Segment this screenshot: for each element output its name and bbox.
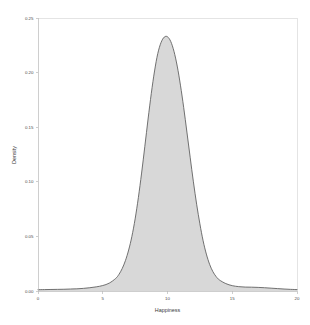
x-tick-label: 10: [165, 296, 170, 301]
chart-canvas: 05101520 Happiness 0.000.050.100.150.200…: [0, 0, 310, 325]
y-tick-label: 0.20: [25, 70, 34, 75]
y-axis-title: Density: [11, 146, 17, 164]
y-tick-label: 0.10: [25, 179, 34, 184]
density-chart: 05101520 Happiness 0.000.050.100.150.200…: [0, 0, 310, 325]
x-axis-title: Happiness: [155, 307, 181, 313]
y-tick-label: 0.05: [25, 234, 34, 239]
x-tick-label: 20: [295, 296, 300, 301]
x-tick-label: 15: [230, 296, 235, 301]
y-tick-label: 0.25: [25, 16, 34, 21]
y-tick-label: 0.00: [25, 289, 34, 294]
y-tick-label: 0.15: [25, 125, 34, 130]
